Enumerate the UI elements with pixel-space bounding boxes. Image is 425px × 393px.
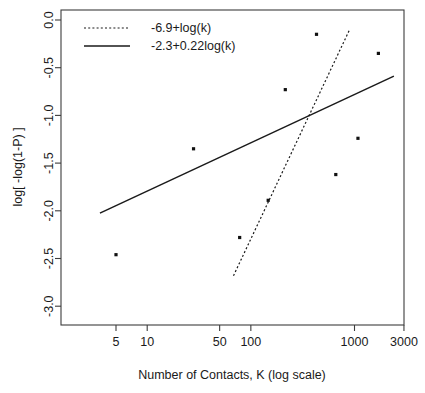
y-axis-ticks: 0.0-0.5-1.0-1.5-2.0-2.5-3.0 [42, 11, 61, 317]
x-tick-label: 50 [213, 335, 227, 349]
y-axis-title: log[ -log(1-P) ] [11, 127, 25, 206]
chart-container: 0.0-0.5-1.0-1.5-2.0-2.5-3.0 510501001000… [0, 0, 425, 393]
data-point [238, 236, 241, 239]
scatter-plot-svg: 0.0-0.5-1.0-1.5-2.0-2.5-3.0 510501001000… [0, 0, 425, 393]
x-axis-title: Number of Contacts, K (log scale) [138, 368, 326, 382]
legend-label: -2.3+0.22log(k) [151, 39, 235, 53]
x-tick-label: 1000 [341, 335, 369, 349]
x-tick-label: 3000 [390, 335, 418, 349]
data-point [267, 199, 270, 202]
plot-frame [61, 10, 404, 325]
x-axis-ticks: 5105010010003000 [113, 325, 418, 349]
x-tick-label: 100 [240, 335, 261, 349]
y-tick-label: -2.0 [42, 200, 56, 222]
data-point [334, 173, 337, 176]
y-tick-label: -1.5 [42, 152, 56, 174]
y-tick-label: -1.0 [42, 105, 56, 127]
series-line-dotted [233, 29, 349, 275]
y-tick-label: -3.0 [42, 295, 56, 317]
legend-label: -6.9+log(k) [151, 21, 211, 35]
data-point [192, 147, 195, 150]
y-tick-label: -2.5 [42, 248, 56, 270]
data-point [284, 88, 287, 91]
data-point [377, 52, 380, 55]
x-tick-label: 5 [113, 335, 120, 349]
chart-legend: -6.9+log(k)-2.3+0.22log(k) [84, 21, 235, 53]
series-line-solid [100, 76, 394, 213]
y-tick-label: 0.0 [42, 11, 56, 28]
data-point [315, 33, 318, 36]
data-point [356, 137, 359, 140]
x-tick-label: 10 [140, 335, 154, 349]
series-lines [100, 29, 394, 275]
y-tick-label: -0.5 [42, 57, 56, 79]
data-point [114, 253, 117, 256]
